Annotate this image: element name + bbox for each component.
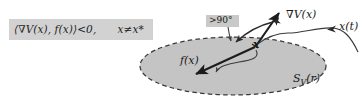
level-set-argument: (r) (306, 72, 320, 85)
point-label: x (253, 39, 259, 50)
figure-canvas: ⟨∇V(x), f(x)⟩<0, x≠x* >90° ∇V(x) x(t) f(… (0, 0, 363, 102)
lyapunov-condition-formula: ⟨∇V(x), f(x)⟩<0, x≠x* (14, 24, 144, 35)
angle-label: >90° (209, 16, 233, 25)
level-set-symbol: S (293, 72, 301, 85)
level-set-label: SV(r) (293, 73, 320, 87)
gradient-label: ∇V(x) (286, 9, 316, 20)
trajectory-label: x(t) (339, 21, 358, 32)
trajectory-arrowhead (327, 26, 336, 33)
vector-field-label: f(x) (180, 55, 199, 66)
